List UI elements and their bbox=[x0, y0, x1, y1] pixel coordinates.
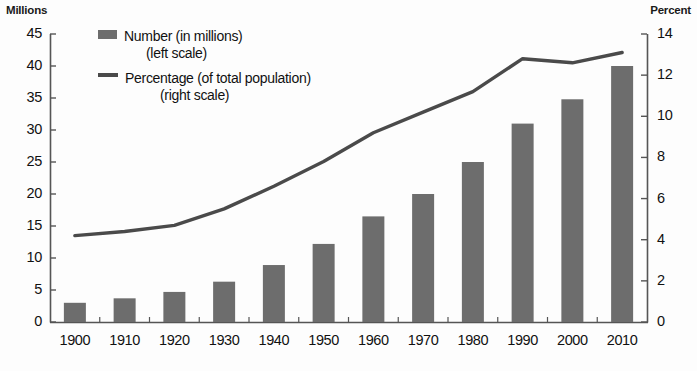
y-axis-right-tick-label: 14 bbox=[657, 25, 691, 41]
y-axis-right-tick-label: 6 bbox=[657, 190, 691, 206]
legend-line-sublabel: (right scale) bbox=[160, 87, 229, 103]
y-axis-right-tick-label: 4 bbox=[657, 231, 691, 247]
y-axis-right-ticks bbox=[641, 34, 647, 322]
bar bbox=[561, 99, 583, 322]
x-axis-tick-label: 1980 bbox=[447, 332, 499, 348]
x-axis-tick-label: 1920 bbox=[148, 332, 200, 348]
y-axis-right-tick-label: 10 bbox=[657, 107, 691, 123]
y-axis-left-tick-label: 5 bbox=[8, 281, 42, 297]
y-axis-left-tick-label: 15 bbox=[8, 217, 42, 233]
legend-line-label: Percentage (of total population) bbox=[125, 70, 311, 86]
bar bbox=[64, 303, 86, 322]
x-axis-tick-label: 2010 bbox=[596, 332, 648, 348]
bar-series bbox=[64, 66, 633, 322]
y-axis-right-tick-label: 0 bbox=[657, 313, 691, 329]
bar bbox=[163, 292, 185, 322]
bar bbox=[512, 124, 534, 322]
chart-plot-area bbox=[0, 0, 697, 371]
bar bbox=[611, 66, 633, 322]
x-axis-tick-label: 1940 bbox=[248, 332, 300, 348]
x-axis-tick-label: 1970 bbox=[397, 332, 449, 348]
y-axis-left-tick-label: 20 bbox=[8, 185, 42, 201]
y-axis-left-tick-label: 10 bbox=[8, 249, 42, 265]
bar bbox=[263, 265, 285, 322]
y-axis-right-tick-label: 12 bbox=[657, 66, 691, 82]
legend-bar-swatch-icon bbox=[98, 30, 117, 39]
legend-item-number: Number (in millions) bbox=[98, 26, 242, 44]
legend-line-swatch-icon bbox=[98, 73, 118, 77]
x-axis-tick-label: 2000 bbox=[546, 332, 598, 348]
bar bbox=[412, 194, 434, 322]
x-axis-tick-label: 1950 bbox=[298, 332, 350, 348]
y-axis-left-tick-label: 45 bbox=[8, 25, 42, 41]
x-axis-tick-label: 1960 bbox=[347, 332, 399, 348]
bar bbox=[313, 244, 335, 322]
y-axis-right-tick-label: 8 bbox=[657, 148, 691, 164]
bar bbox=[362, 216, 384, 322]
x-axis-tick-label: 1910 bbox=[99, 332, 151, 348]
y-axis-left-tick-label: 35 bbox=[8, 89, 42, 105]
x-axis-tick-label: 1990 bbox=[497, 332, 549, 348]
bar bbox=[213, 282, 235, 322]
legend-bar-label: Number (in millions) bbox=[124, 28, 242, 44]
y-axis-left-tick-label: 0 bbox=[8, 313, 42, 329]
bar bbox=[114, 298, 136, 322]
y-axis-left-tick-label: 40 bbox=[8, 57, 42, 73]
x-axis-tick-label: 1930 bbox=[198, 332, 250, 348]
legend-item-percentage: Percentage (of total population) bbox=[98, 68, 311, 86]
chart-container: Millions Percent 051015202530354045 0246… bbox=[0, 0, 697, 371]
y-axis-left-tick-label: 25 bbox=[8, 153, 42, 169]
bar bbox=[462, 162, 484, 322]
y-axis-right-tick-label: 2 bbox=[657, 272, 691, 288]
legend-bar-sublabel: (left scale) bbox=[146, 45, 207, 61]
y-axis-left-tick-label: 30 bbox=[8, 121, 42, 137]
x-axis-tick-label: 1900 bbox=[49, 332, 101, 348]
